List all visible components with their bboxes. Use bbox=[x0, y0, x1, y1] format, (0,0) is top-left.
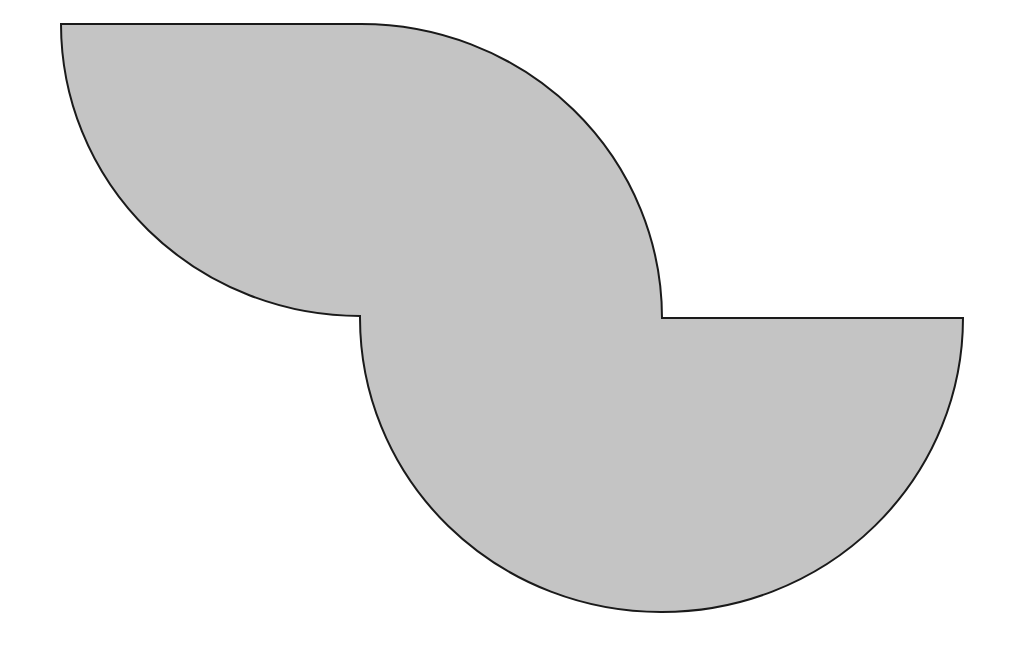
s-shaped-figure bbox=[61, 24, 963, 612]
diagram-canvas bbox=[0, 0, 1028, 659]
